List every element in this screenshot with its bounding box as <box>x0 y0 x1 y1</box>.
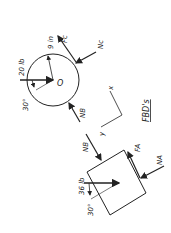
block-angle-label: 30° <box>87 204 95 216</box>
fa-label: FA <box>134 143 142 152</box>
axes: x y <box>98 85 122 137</box>
block-weight-label: 36 lb <box>78 177 86 195</box>
disk-fbd: O 20 lb 30° 9 in Fc Nc NB <box>18 35 105 122</box>
angle-arc-arrow <box>32 80 34 87</box>
nc-arrow <box>76 52 96 63</box>
disk-angle-label: 30° <box>22 99 30 111</box>
radius-label: 9 in <box>47 36 55 49</box>
x-axis-label: x <box>107 85 115 91</box>
fbd-diagram: O 20 lb 30° 9 in Fc Nc NB x y FBD's NB F… <box>0 0 171 233</box>
block-fbd: NB FA NA 36 lb 30° <box>78 134 164 216</box>
angle-ref-line <box>36 80 53 90</box>
fc-label: Fc <box>61 35 69 43</box>
axes-lines <box>101 91 122 127</box>
diagram-title: FBD's <box>142 99 151 122</box>
center-label: O <box>57 79 63 88</box>
block-angle-arc-arrow <box>89 183 90 195</box>
na-arrow <box>141 166 164 178</box>
nb-disk-label: NB <box>79 108 87 118</box>
nb-block-label: NB <box>82 142 90 152</box>
nc-label: Nc <box>97 40 105 49</box>
disk-weight-label: 20 lb <box>18 58 26 76</box>
radius-line <box>48 56 53 80</box>
fa-arrow <box>128 152 140 178</box>
na-label: NA <box>156 155 164 165</box>
block-angle-ref-line <box>91 183 118 199</box>
y-axis-label: y <box>98 131 106 137</box>
